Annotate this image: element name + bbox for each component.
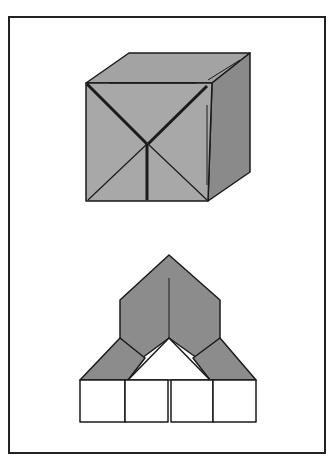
unfolded-base bbox=[80, 255, 256, 422]
origami-diagram bbox=[0, 0, 335, 458]
folded-cube bbox=[86, 53, 250, 201]
